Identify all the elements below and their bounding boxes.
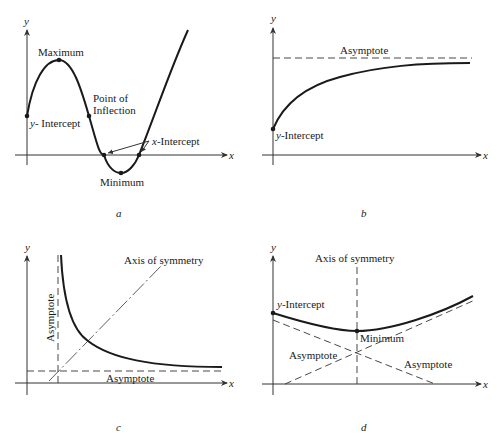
log-curve xyxy=(273,63,470,129)
y-intercept-label: y-Intercept xyxy=(276,298,325,310)
panel-caption-b: b xyxy=(361,207,367,219)
asymptote-label: Asymptote xyxy=(340,44,388,56)
y-axis-label: y xyxy=(24,241,30,253)
x-axis-label: x xyxy=(228,377,234,389)
x-intercept-point-1 xyxy=(102,153,107,158)
y-intercept-point xyxy=(271,311,276,316)
x-intercept-label: x-Intercept xyxy=(151,135,200,147)
minimum-point xyxy=(355,329,360,334)
panel-caption-c: c xyxy=(116,421,121,433)
panel-caption-a: a xyxy=(116,207,122,219)
panel-c: y x Axis of symmetry Asymptote Asymptote… xyxy=(15,241,234,433)
x-axis-label: x xyxy=(482,378,488,390)
y-intercept-label: y- Intercept xyxy=(29,117,80,129)
right-asymptote-label: Asymptote xyxy=(404,358,452,370)
function-features-diagram: y x Maximum Point of Inflection y- Inter… xyxy=(0,0,497,438)
panel-d: y x Axis of symmetry y-Intercept Minimum… xyxy=(262,241,488,433)
axis-of-symmetry-line xyxy=(49,264,163,381)
vertical-asymptote-label: Asymptote xyxy=(44,294,56,342)
inflection-point xyxy=(87,114,92,119)
x-axis-label: x xyxy=(228,149,234,161)
minimum-point xyxy=(119,171,124,176)
x-intercept-point-2 xyxy=(137,153,142,158)
x-axis-label: x xyxy=(482,149,488,161)
panel-a: y x Maximum Point of Inflection y- Inter… xyxy=(15,15,234,219)
inflection-label-line1: Point of xyxy=(93,92,128,104)
minimum-label: Minimum xyxy=(360,332,404,344)
maximum-point xyxy=(57,58,62,63)
axis-of-symmetry-label: Axis of symmetry xyxy=(315,252,395,264)
y-axis-label: y xyxy=(23,15,29,27)
minimum-label: Minimum xyxy=(100,176,144,188)
left-asymptote-label: Asymptote xyxy=(289,349,337,361)
panel-caption-d: d xyxy=(361,421,367,433)
inflection-label-line2: Inflection xyxy=(93,104,136,116)
y-intercept-point xyxy=(25,114,30,119)
maximum-label: Maximum xyxy=(38,46,84,58)
panel-b: y x Asymptote y-Intercept b xyxy=(262,12,488,219)
hyperbola-curve xyxy=(61,255,222,367)
y-intercept-point xyxy=(271,127,276,132)
y-axis-label: y xyxy=(270,12,276,24)
y-intercept-label: y-Intercept xyxy=(275,129,324,141)
axis-of-symmetry-label: Axis of symmetry xyxy=(124,254,204,266)
y-axis-label: y xyxy=(270,241,276,253)
horizontal-asymptote-label: Asymptote xyxy=(106,372,154,384)
